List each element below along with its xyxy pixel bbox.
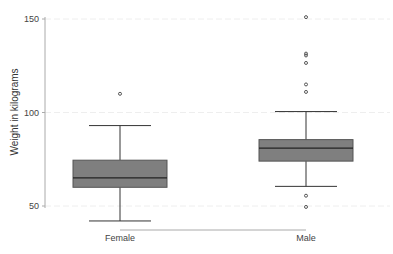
y-tick-label: 50: [29, 201, 39, 211]
x-axis-labels: FemaleMale: [105, 233, 316, 243]
box-female: [73, 92, 167, 221]
y-axis-ticks: 50100150: [24, 14, 45, 211]
y-axis-label: Weight in kilograms: [9, 68, 20, 155]
outlier-point: [305, 90, 308, 93]
outlier-point: [305, 16, 308, 19]
iqr-box: [73, 160, 167, 187]
outlier-point: [305, 61, 308, 64]
outlier-point: [305, 205, 308, 208]
x-tick-label-male: Male: [296, 233, 316, 243]
y-tick-label: 100: [24, 108, 39, 118]
y-tick-label: 150: [24, 14, 39, 24]
iqr-box: [259, 140, 353, 162]
box-plot: 50100150 Weight in kilograms FemaleMale: [0, 0, 393, 254]
x-tick-label-female: Female: [105, 233, 135, 243]
outlier-point: [119, 92, 122, 95]
boxes: [73, 16, 353, 221]
outlier-point: [305, 194, 308, 197]
outlier-point: [305, 83, 308, 86]
